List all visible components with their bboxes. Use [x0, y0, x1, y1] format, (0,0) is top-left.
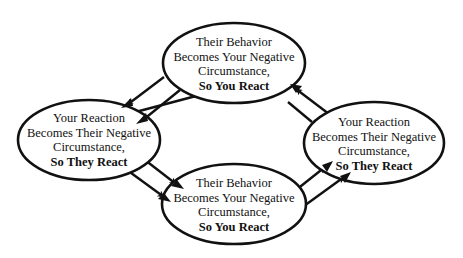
node-bottom-line-3: Circumstance,: [198, 205, 270, 219]
node-bottom-line-2: Becomes Your Negative: [173, 191, 295, 205]
node-top: Their Behavior Becomes Your Negative Cir…: [163, 23, 305, 103]
cycle-diagram: Their Behavior Becomes Your Negative Cir…: [0, 0, 463, 258]
node-left-bold-line: So They React: [51, 155, 129, 169]
node-right-bold-line: So They React: [336, 159, 414, 173]
arrow-icon: [280, 101, 308, 125]
node-left-line-2: Becomes Their Negative: [27, 126, 151, 140]
arrow-icon: [145, 160, 176, 184]
node-left-line-3: Circumstance,: [53, 140, 125, 154]
arrow-icon: [127, 77, 164, 105]
node-bottom: Their Behavior Becomes Your Negative Cir…: [162, 164, 306, 244]
node-bottom-bold-line: So You React: [199, 220, 270, 234]
node-top-line-3: Circumstance,: [198, 64, 270, 78]
node-left: Your Reaction Becomes Their Negative Cir…: [18, 100, 160, 180]
node-left-line-1: Your Reaction: [53, 111, 126, 125]
arrow-icon: [296, 89, 329, 114]
node-top-bold-line: So You React: [199, 79, 270, 93]
arrow-icon: [288, 102, 312, 122]
node-right: Your Reaction Becomes Their Negative Cir…: [304, 102, 444, 184]
node-right-line-1: Your Reaction: [338, 115, 411, 129]
node-bottom-line-1: Their Behavior: [196, 176, 273, 190]
node-right-line-3: Circumstance,: [338, 144, 410, 158]
arrow-icon: [127, 170, 164, 197]
node-right-line-2: Becomes Their Negative: [312, 130, 436, 144]
arrow-icon: [304, 177, 344, 206]
arrow-icon: [143, 90, 180, 120]
node-top-line-2: Becomes Your Negative: [173, 50, 295, 64]
node-top-line-1: Their Behavior: [196, 35, 273, 49]
edge-right-to-top-second: [288, 102, 312, 122]
